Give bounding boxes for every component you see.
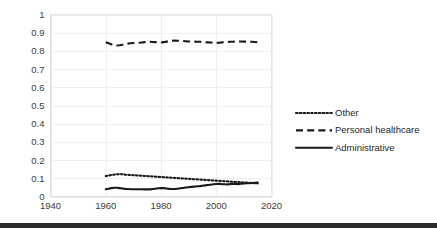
x-tick-label-3: 2000	[206, 200, 227, 211]
legend-label: Personal healthcare	[335, 124, 420, 135]
chart-legend: OtherPersonal healthcareAdministrative	[296, 107, 420, 153]
legend-item-other[interactable]: Other	[296, 107, 359, 118]
y-axis-tick-labels: 00.10.20.30.40.50.60.70.80.91	[31, 9, 44, 202]
x-tick-label-4: 2020	[261, 200, 282, 211]
legend-label: Administrative	[335, 142, 395, 153]
line-chart: 00.10.20.30.40.50.60.70.80.91 1940196019…	[0, 0, 437, 230]
x-tick-label-1: 1960	[95, 200, 116, 211]
chart-container: 00.10.20.30.40.50.60.70.80.91 1940196019…	[0, 0, 437, 230]
y-tick-label-5: 0.5	[31, 100, 44, 111]
legend-item-administrative[interactable]: Administrative	[296, 142, 395, 153]
y-tick-label-3: 0.3	[31, 136, 44, 147]
y-tick-label-1: 0.1	[31, 173, 44, 184]
data-series-group	[106, 41, 258, 190]
y-tick-label-9: 0.9	[31, 27, 44, 38]
series-line-administrative	[106, 183, 258, 190]
y-tick-label-2: 0.2	[31, 155, 44, 166]
y-tick-label-7: 0.7	[31, 64, 44, 75]
y-tick-label-6: 0.6	[31, 82, 44, 93]
bottom-border-bar	[0, 223, 437, 228]
x-tick-label-2: 1980	[150, 200, 171, 211]
x-tick-label-0: 1940	[40, 200, 61, 211]
y-tick-label-10: 1	[39, 9, 44, 20]
legend-label: Other	[335, 107, 359, 118]
series-line-personal-healthcare	[106, 41, 258, 46]
x-axis-tick-labels: 19401960198020002020	[40, 200, 282, 211]
legend-item-personal-healthcare[interactable]: Personal healthcare	[296, 124, 420, 135]
y-tick-label-8: 0.8	[31, 45, 44, 56]
y-tick-label-4: 0.4	[31, 118, 44, 129]
